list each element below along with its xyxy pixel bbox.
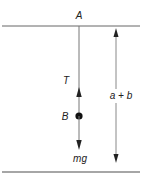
distance-arrow-down-icon bbox=[114, 154, 119, 163]
distance-arrow-up-icon bbox=[114, 28, 119, 37]
diagram-canvas: A T B mg a + b bbox=[0, 0, 142, 174]
label-b: B bbox=[62, 111, 69, 122]
label-a: A bbox=[75, 10, 83, 21]
weight-arrow-icon bbox=[76, 140, 81, 150]
tension-arrow-icon bbox=[76, 87, 81, 97]
label-mg: mg bbox=[73, 153, 87, 164]
label-t: T bbox=[63, 75, 70, 86]
label-distance: a + b bbox=[110, 90, 133, 101]
